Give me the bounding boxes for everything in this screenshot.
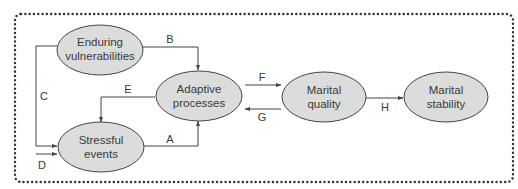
edge-label-e: E (124, 83, 131, 95)
node-label-line2: processes (173, 97, 226, 109)
node-label-line1: Enduring (77, 36, 123, 48)
edge-label-g: G (258, 111, 267, 123)
edge-label-d: D (38, 159, 46, 171)
edge-label-a: A (166, 133, 174, 145)
node-label-line2: vulnerabilities (65, 50, 135, 62)
node-label-line1: Stressful (79, 134, 124, 146)
node-marital-stability: Marital stability (404, 72, 488, 122)
node-label-line1: Adaptive (177, 83, 222, 95)
node-stressful-events: Stressful events (58, 122, 144, 172)
node-adaptive-processes: Adaptive processes (156, 71, 242, 121)
node-ellipse (282, 72, 366, 122)
node-marital-quality: Marital quality (282, 72, 366, 122)
node-ellipse (156, 71, 242, 121)
node-label-line2: stability (427, 98, 466, 110)
edge-label-h: H (381, 101, 389, 113)
node-label-line1: Marital (429, 84, 464, 96)
node-ellipse (58, 122, 144, 172)
edge-e-arrow (101, 97, 155, 122)
vsa-model-diagram: B C D E A F G H Enduring vulnerabilities… (0, 0, 518, 189)
node-ellipse (404, 72, 488, 122)
node-label-line2: quality (307, 98, 340, 110)
node-enduring-vulnerabilities: Enduring vulnerabilities (57, 25, 143, 75)
edge-b-arrow (141, 47, 198, 70)
node-label-line1: Marital (307, 84, 342, 96)
edge-label-f: F (259, 71, 266, 83)
edge-label-c: C (40, 90, 48, 102)
edge-label-b: B (166, 33, 173, 45)
node-label-line2: events (84, 148, 118, 160)
